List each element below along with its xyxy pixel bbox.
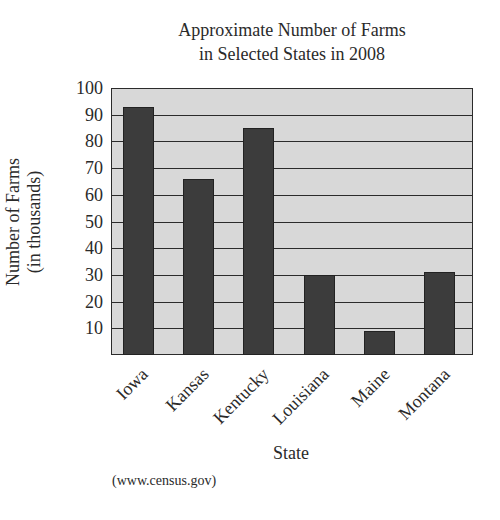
y-axis-label-line-2: (in thousands)	[24, 158, 45, 286]
y-tick-label: 100	[63, 79, 103, 97]
bar-kansas	[183, 179, 214, 355]
gridline	[112, 168, 472, 169]
gridline	[112, 328, 472, 329]
y-tick-label: 30	[63, 266, 103, 284]
gridline	[112, 195, 472, 196]
y-tick-label: 10	[63, 319, 103, 337]
y-tick-label: 80	[63, 132, 103, 150]
x-tick-label: Kansas	[161, 364, 213, 416]
bar-montana	[424, 272, 455, 355]
chart-title: Approximate Number of Farms in Selected …	[111, 18, 473, 66]
x-tick-label: Kentucky	[209, 364, 273, 428]
bar-kentucky	[243, 128, 274, 355]
chart-title-line-2: in Selected States in 2008	[111, 42, 473, 66]
gridline	[112, 275, 472, 276]
bar-maine	[364, 331, 395, 355]
y-tick-label: 50	[63, 213, 103, 231]
source-note: (www.census.gov)	[112, 473, 216, 489]
y-tick-label: 60	[63, 186, 103, 204]
gridline	[112, 141, 472, 142]
y-tick-label: 90	[63, 106, 103, 124]
gridline	[112, 302, 472, 303]
gridline	[112, 248, 472, 249]
gridline	[112, 222, 472, 223]
x-tick-label: Iowa	[112, 364, 152, 404]
chart-title-line-1: Approximate Number of Farms	[111, 18, 473, 42]
bar-louisiana	[304, 275, 335, 355]
plot-area	[111, 88, 473, 355]
x-tick-label: Maine	[347, 364, 394, 411]
bar-iowa	[123, 107, 154, 355]
y-axis-label: Number of Farms (in thousands)	[3, 158, 45, 286]
gridline	[112, 115, 472, 116]
y-tick-label: 40	[63, 239, 103, 257]
x-tick-label: Louisiana	[269, 364, 334, 429]
y-tick-label: 70	[63, 159, 103, 177]
x-tick-label: Montana	[394, 364, 454, 424]
x-axis-label: State	[273, 443, 309, 464]
y-axis-label-line-1: Number of Farms	[3, 158, 24, 286]
y-tick-label: 20	[63, 293, 103, 311]
